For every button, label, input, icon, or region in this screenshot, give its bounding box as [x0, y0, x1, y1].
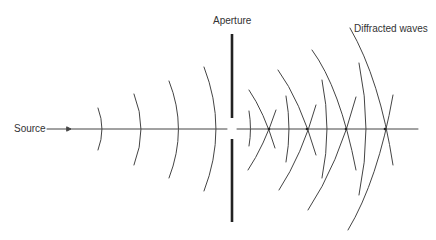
diffracted-arc-lower-1 [248, 110, 276, 170]
arrow-icon [67, 127, 71, 131]
diffracted-arc-upper-2 [278, 70, 316, 155]
diffracted-arc-upper-1 [249, 90, 275, 148]
diffracted-arc-upper-4 [350, 28, 393, 165]
diffraction-diagram [0, 0, 436, 240]
diffracted-arc-upper-3 [312, 50, 356, 170]
diffracted-arc-lower-2 [279, 105, 316, 190]
